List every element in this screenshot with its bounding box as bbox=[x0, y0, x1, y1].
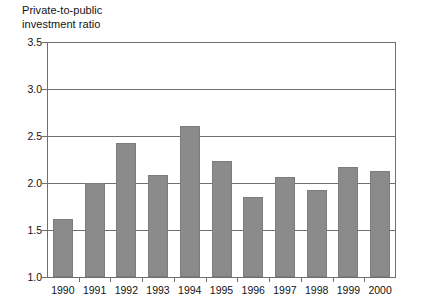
bar bbox=[212, 161, 232, 277]
bar bbox=[53, 219, 73, 277]
y-axis-tick-label: 3.0 bbox=[14, 83, 42, 95]
x-axis-tick-mark bbox=[142, 278, 143, 282]
chart-title: Private-to-public investment ratio bbox=[22, 4, 232, 31]
gridline bbox=[47, 42, 396, 43]
x-axis-tick-label: 1998 bbox=[305, 284, 328, 296]
bar bbox=[180, 126, 200, 277]
x-axis-tick-label: 1991 bbox=[83, 284, 106, 296]
x-axis-tick-label: 1994 bbox=[178, 284, 201, 296]
x-axis-tick-label: 1999 bbox=[337, 284, 360, 296]
x-axis-tick-mark bbox=[237, 278, 238, 282]
y-axis-tick-label: 2.5 bbox=[14, 130, 42, 142]
y-axis-tick-label: 2.0 bbox=[14, 177, 42, 189]
x-axis-tick-mark bbox=[301, 278, 302, 282]
bar bbox=[148, 175, 168, 277]
x-axis-tick-label: 1990 bbox=[51, 284, 74, 296]
chart-figure: Private-to-public investment ratio 1.01.… bbox=[0, 0, 422, 304]
x-axis-tick-mark bbox=[269, 278, 270, 282]
x-axis-tick-label: 1993 bbox=[146, 284, 169, 296]
x-axis-tick-label: 1997 bbox=[273, 284, 296, 296]
x-axis-tick-label: 1996 bbox=[242, 284, 265, 296]
x-axis-tick-mark bbox=[333, 278, 334, 282]
y-axis-labels: 1.01.52.02.53.03.5 bbox=[11, 0, 42, 304]
plot-area bbox=[47, 42, 396, 277]
bar bbox=[307, 190, 327, 277]
x-axis-tick-mark bbox=[206, 278, 207, 282]
bar bbox=[275, 177, 295, 277]
x-axis-line bbox=[47, 277, 396, 278]
y-axis-tick-label: 1.0 bbox=[14, 271, 42, 283]
x-axis-tick-mark bbox=[174, 278, 175, 282]
bar bbox=[338, 167, 358, 277]
x-axis-tick-label: 2000 bbox=[368, 284, 391, 296]
x-axis-tick-label: 1992 bbox=[115, 284, 138, 296]
x-axis-tick-mark bbox=[364, 278, 365, 282]
bar bbox=[116, 143, 136, 277]
gridline bbox=[47, 89, 396, 90]
x-axis-tick-label: 1995 bbox=[210, 284, 233, 296]
x-axis-tick-mark bbox=[79, 278, 80, 282]
gridline bbox=[47, 136, 396, 137]
x-axis-tick-mark bbox=[110, 278, 111, 282]
y-axis-tick-label: 3.5 bbox=[14, 36, 42, 48]
y-axis-tick-label: 1.5 bbox=[14, 224, 42, 236]
bar bbox=[370, 171, 390, 277]
bar bbox=[243, 197, 263, 277]
bar bbox=[85, 183, 105, 277]
